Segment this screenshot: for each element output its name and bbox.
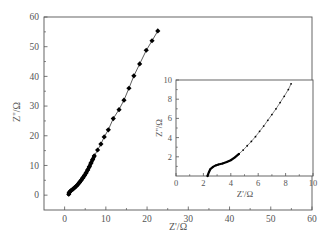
inset-frame — [176, 80, 313, 176]
inset-x-tick-label: 10 — [309, 178, 318, 188]
inset-x-tick-label: 2 — [201, 178, 205, 188]
inset-y-tick-label: 10 — [164, 75, 173, 85]
inset-data-point — [255, 136, 257, 138]
inset-x-tick-label: 8 — [283, 178, 287, 188]
nyquist-chart: 01020304050600102030405060 0246810246810… — [0, 0, 327, 250]
inset-data-point — [283, 95, 285, 97]
inset-y-tick-label: 8 — [168, 94, 172, 104]
inset-y-tick-label: 6 — [168, 113, 172, 123]
inset-data-point — [290, 83, 292, 85]
inset-data-point — [287, 89, 289, 91]
inset-x-tick-label: 0 — [174, 178, 178, 188]
inset-x-axis-label: Z'/Ω — [237, 189, 254, 199]
inset-data-point — [267, 119, 269, 121]
main-x-tick-label: 60 — [307, 214, 317, 224]
main-y-tick-label: 20 — [30, 131, 40, 141]
inset-data-point — [250, 141, 252, 143]
main-y-tick-label: 40 — [30, 72, 40, 82]
main-x-tick-label: 10 — [101, 214, 111, 224]
inset-data-point — [271, 114, 273, 116]
main-x-tick-label: 20 — [142, 214, 152, 224]
main-y-tick-label: 0 — [34, 190, 39, 200]
main-y-tick-label: 60 — [30, 12, 40, 22]
inset-x-tick-label: 4 — [229, 178, 234, 188]
inset-data-point — [275, 108, 277, 110]
inset-y-tick-label: 2 — [168, 152, 172, 162]
inset-x-tick-label: 6 — [256, 178, 260, 188]
inset-data-point — [279, 102, 281, 104]
main-x-axis-label: Z'/Ω — [169, 221, 187, 232]
main-y-axis-label: Z''/Ω — [11, 102, 22, 122]
main-x-tick-label: 50 — [266, 214, 276, 224]
main-y-tick-label: 10 — [30, 161, 40, 171]
main-x-tick-label: 0 — [62, 214, 67, 224]
inset-data-point — [246, 145, 248, 147]
inset-data-point — [263, 125, 265, 127]
inset-y-axis-label: Z''/Ω — [154, 119, 164, 137]
main-x-tick-label: 40 — [225, 214, 235, 224]
main-y-tick-label: 30 — [30, 101, 40, 111]
main-y-tick-label: 50 — [30, 42, 40, 52]
inset-data-point — [242, 149, 244, 151]
inset-plot: 0246810246810 — [164, 75, 318, 188]
inset-data-point — [259, 130, 261, 132]
